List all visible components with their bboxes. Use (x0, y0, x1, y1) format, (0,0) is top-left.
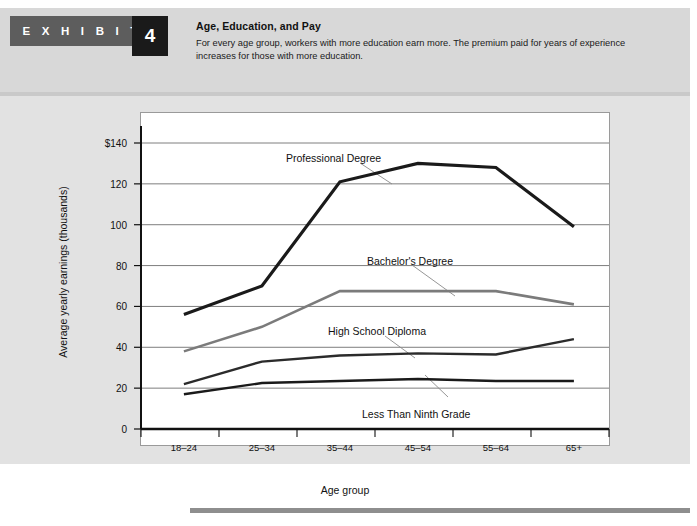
x-axis-title: Age group (0, 484, 690, 496)
y-axis-title: Average yearly earnings (thousands) (57, 157, 69, 387)
y-axis-tick-label: 0 (83, 424, 127, 435)
x-axis-tick-label: 65+ (544, 442, 604, 453)
axis-lines (141, 126, 609, 429)
chart-stage: 020406080100120$140 18–2425–3435–4445–54… (0, 96, 690, 464)
series-annotation-label: High School Diploma (328, 325, 426, 337)
y-axis-tick-label: 100 (83, 219, 127, 230)
x-axis-tick-label: 55–64 (466, 442, 526, 453)
data-series-group (184, 163, 574, 394)
exhibit-description: For every age group, workers with more e… (196, 37, 666, 64)
series-line (184, 291, 574, 351)
series-line (184, 379, 574, 394)
exhibit-header-text: Age, Education, and Pay For every age gr… (196, 20, 666, 64)
x-axis-tick-label: 25–34 (232, 442, 292, 453)
x-axis-tick-label: 35–44 (310, 442, 370, 453)
y-axis-tick-label: 60 (83, 301, 127, 312)
exhibit-tag: E X H I B I T (10, 16, 150, 46)
y-axis-tick-label: 40 (83, 342, 127, 353)
y-axis-tick-label: 80 (83, 260, 127, 271)
exhibit-title: Age, Education, and Pay (196, 20, 666, 32)
x-axis-tick-label: 45–54 (388, 442, 448, 453)
series-line (184, 339, 574, 384)
x-axis-tick-label: 18–24 (154, 442, 214, 453)
exhibit-number-badge: 4 (132, 16, 168, 56)
y-axis-tick-label: 20 (83, 383, 127, 394)
annotation-leader-lines (360, 163, 455, 397)
y-axis-tick-label: 120 (83, 178, 127, 189)
series-annotation-label: Professional Degree (286, 152, 381, 164)
series-annotation-label: Less Than Ninth Grade (362, 408, 470, 420)
series-annotation-label: Bachelor's Degree (367, 255, 453, 267)
bottom-rule (190, 508, 690, 513)
exhibit-header-band: E X H I B I T 4 Age, Education, and Pay … (0, 8, 690, 92)
exhibit-page: E X H I B I T 4 Age, Education, and Pay … (0, 0, 697, 526)
y-axis-tick-label: $140 (83, 138, 127, 149)
